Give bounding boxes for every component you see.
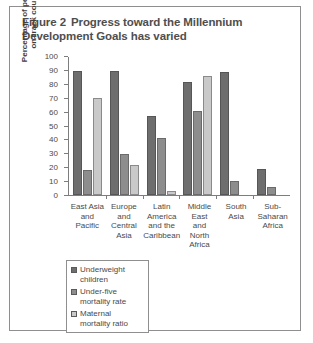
- chart-legend: Underweightchildren Under-fivemortality …: [66, 260, 149, 333]
- bar: [93, 98, 102, 195]
- y-axis-tick: 50: [64, 126, 68, 127]
- y-axis-tick-label: 70: [49, 93, 58, 102]
- y-axis-tick: 40: [64, 139, 68, 140]
- x-axis-category-label: SouthAsia: [218, 202, 255, 250]
- y-axis-tick-label: 10: [49, 177, 58, 186]
- x-axis-category-label: Sub-SaharanAfrica: [254, 202, 291, 250]
- legend-label-line1: Maternal: [80, 309, 111, 318]
- y-axis-tick-label: 20: [49, 163, 58, 172]
- bar-group: [106, 57, 143, 195]
- y-axis-tick-label: 50: [49, 121, 58, 130]
- bar: [267, 187, 276, 195]
- bar: [73, 71, 82, 195]
- y-axis-tick-label: 100: [45, 52, 58, 61]
- y-axis-tick-label: 40: [49, 135, 58, 144]
- bar: [203, 76, 212, 195]
- bar-group: [216, 57, 253, 195]
- legend-swatch-under-five-mortality-rate: [71, 289, 77, 295]
- bar: [167, 191, 176, 195]
- legend-label: Maternalmortality ratio: [80, 309, 128, 328]
- legend-swatch-underweight-children: [71, 267, 77, 273]
- bar: [157, 138, 166, 195]
- legend-label-line2: mortality rate: [80, 297, 126, 306]
- y-axis-tick: 90: [64, 70, 68, 71]
- legend-label-line1: Underweight: [80, 265, 125, 274]
- bar: [110, 71, 119, 195]
- bar: [220, 72, 229, 195]
- y-axis-tick: 30: [64, 153, 68, 154]
- y-axis-tick-label: 60: [49, 107, 58, 116]
- bar: [230, 181, 239, 195]
- legend-label: Under-fivemortality rate: [80, 287, 126, 306]
- y-axis-label: Percentage of people inon-track country: [20, 0, 34, 71]
- legend-item: Underweightchildren: [71, 265, 144, 284]
- plot-area: 0102030405060708090100: [68, 57, 290, 196]
- bar: [147, 116, 156, 195]
- y-axis-tick-label: 30: [49, 149, 58, 158]
- x-axis-tick: [216, 195, 217, 199]
- x-axis-category-label: EuropeandCentralAsia: [106, 202, 143, 250]
- bar: [83, 170, 92, 195]
- legend-label: Underweightchildren: [80, 265, 125, 284]
- y-axis-label-line: Percentage of people in: [20, 0, 29, 71]
- bar: [193, 111, 202, 195]
- legend-item: Under-fivemortality rate: [71, 287, 144, 306]
- bar-chart: Percentage of people inon-track country …: [22, 51, 292, 251]
- bar-group: [179, 57, 216, 195]
- bar-group: [253, 57, 290, 195]
- y-axis-tick-label: 80: [49, 79, 58, 88]
- bar: [130, 165, 139, 195]
- x-axis-category-label: East AsiaandPacific: [69, 202, 106, 250]
- y-axis-tick: 100: [64, 56, 68, 57]
- y-axis-tick: 70: [64, 98, 68, 99]
- x-axis-category-label: LatinAmericaand theCaribbean: [142, 202, 181, 250]
- y-axis-tick-label: 90: [49, 65, 58, 74]
- x-axis-category-labels: East AsiaandPacificEuropeandCentralAsiaL…: [69, 202, 291, 250]
- y-axis-tick: 0: [64, 195, 68, 196]
- legend-label-line1: Under-five: [80, 287, 117, 296]
- bar: [120, 154, 129, 195]
- legend-label-line2: mortality ratio: [80, 319, 128, 328]
- x-axis-tick: [253, 195, 254, 199]
- x-axis-tick: [179, 195, 180, 199]
- legend-item: Maternalmortality ratio: [71, 309, 144, 328]
- bar-groups: [69, 57, 290, 195]
- y-axis-tick: 80: [64, 84, 68, 85]
- y-axis-tick: 60: [64, 112, 68, 113]
- legend-swatch-maternal-mortality-ratio: [71, 311, 77, 317]
- bar-group: [69, 57, 106, 195]
- x-axis-tick: [143, 195, 144, 199]
- bar: [183, 82, 192, 195]
- y-axis-tick: 20: [64, 167, 68, 168]
- y-axis-tick-label: 0: [54, 191, 58, 200]
- y-axis-tick: 10: [64, 181, 68, 182]
- legend-label-line2: children: [80, 275, 108, 284]
- x-axis-tick: [106, 195, 107, 199]
- bar-group: [143, 57, 180, 195]
- x-axis-category-label: MiddleEastand NorthAfrica: [181, 202, 218, 250]
- y-axis-label-line: on-track country: [29, 0, 38, 71]
- figure-title: Figure 2Progress toward the Millennium D…: [22, 15, 290, 43]
- bar: [257, 169, 266, 195]
- figure-frame: Figure 2Progress toward the Millennium D…: [9, 6, 301, 331]
